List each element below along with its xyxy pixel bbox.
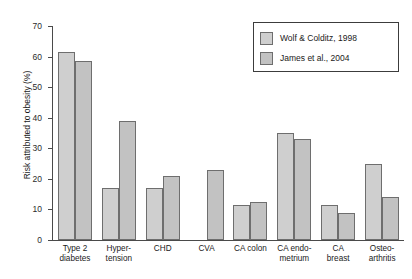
bar <box>163 176 180 240</box>
legend-item-0: Wolf & Colditz, 1998 <box>260 28 398 48</box>
bar-chart: Risk attributed to obesity (%) 010203040… <box>0 0 412 279</box>
bar <box>207 170 224 240</box>
bar <box>365 164 382 240</box>
y-axis-tick-label: 60 <box>16 53 42 61</box>
x-axis-category-label-line: tension <box>90 254 148 264</box>
y-axis-tick <box>48 26 52 27</box>
y-axis-tick <box>48 57 52 58</box>
bar <box>277 133 294 240</box>
bar <box>146 188 163 240</box>
bar <box>102 188 119 240</box>
x-axis-category-label: Osteo-arthritis <box>353 244 411 263</box>
bar <box>321 205 338 240</box>
bar <box>233 205 250 240</box>
bar-group <box>146 26 180 240</box>
legend-label-series-1: James et al., 2004 <box>280 53 349 63</box>
x-axis-category-label-line: Osteo- <box>353 244 411 254</box>
y-axis-tick-label: 40 <box>16 114 42 122</box>
bar-group <box>58 26 92 240</box>
bar <box>119 121 136 240</box>
y-axis-tick <box>48 209 52 210</box>
y-axis-tick-label: 70 <box>16 22 42 30</box>
bar <box>58 52 75 240</box>
y-axis-tick <box>48 87 52 88</box>
bar-group <box>190 26 224 240</box>
y-axis-tick <box>48 240 52 241</box>
x-axis-line <box>52 240 404 241</box>
y-axis-tick <box>48 148 52 149</box>
y-axis-tick-label: 0 <box>16 236 42 244</box>
y-axis-tick <box>48 118 52 119</box>
y-axis-tick-label: 30 <box>16 144 42 152</box>
y-axis-tick-label: 10 <box>16 205 42 213</box>
bar <box>382 197 399 240</box>
x-axis-category-label-line: arthritis <box>353 254 411 264</box>
legend-label-series-0: Wolf & Colditz, 1998 <box>280 33 357 43</box>
y-axis-tick <box>48 179 52 180</box>
y-axis-tick-label: 50 <box>16 83 42 91</box>
bar <box>75 61 92 240</box>
y-axis-title: Risk attributed to obesity (%) <box>22 35 32 215</box>
bar <box>250 202 267 240</box>
bar-group <box>102 26 136 240</box>
legend-swatch-icon-series-0 <box>260 32 273 45</box>
bar <box>338 213 355 241</box>
chart-legend: Wolf & Colditz, 1998 James et al., 2004 <box>253 22 399 72</box>
y-axis-tick-label: 20 <box>16 175 42 183</box>
legend-item-1: James et al., 2004 <box>260 48 398 68</box>
legend-swatch-icon-series-1 <box>260 52 273 65</box>
bar <box>294 139 311 240</box>
